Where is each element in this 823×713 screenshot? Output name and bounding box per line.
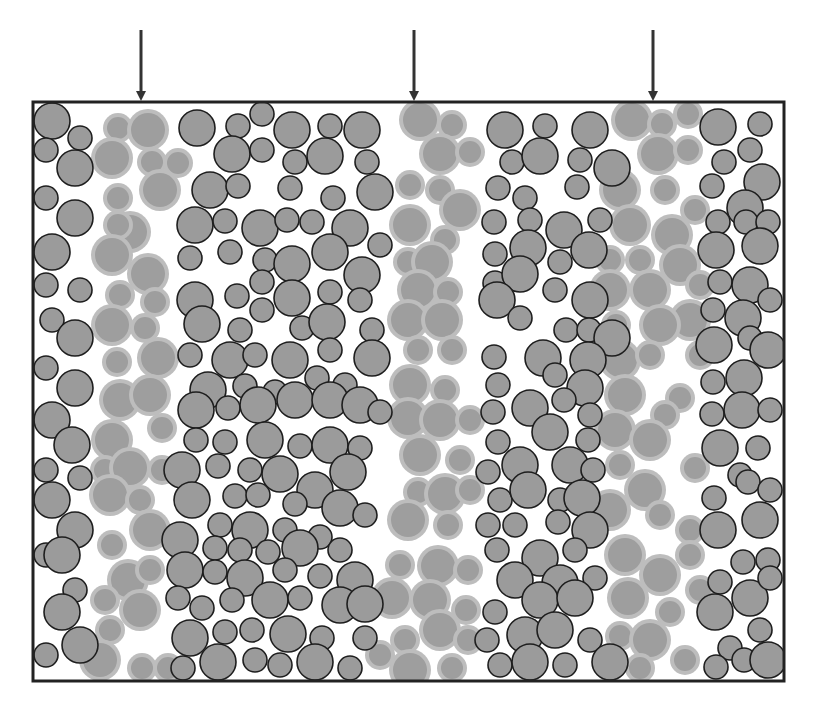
particle <box>318 280 342 304</box>
highlighted-particle <box>91 304 133 346</box>
highlighted-particle <box>455 137 485 167</box>
particle <box>250 298 274 322</box>
particle <box>34 234 70 270</box>
highlighted-particle <box>97 530 127 560</box>
particle <box>312 234 348 270</box>
particle <box>563 538 587 562</box>
highlighted-particle <box>129 374 171 416</box>
highlighted-particle <box>119 589 161 631</box>
particle <box>247 422 283 458</box>
particle <box>275 208 299 232</box>
particle <box>706 210 730 234</box>
particle <box>288 586 312 610</box>
particle <box>500 150 524 174</box>
particle <box>581 458 605 482</box>
particle <box>731 550 755 574</box>
highlighted-particle <box>91 234 133 276</box>
particle <box>485 538 509 562</box>
particle <box>190 596 214 620</box>
particle <box>708 270 732 294</box>
particle <box>697 594 733 630</box>
particle <box>200 644 236 680</box>
highlighted-particle <box>635 340 665 370</box>
particle <box>546 510 570 534</box>
particle <box>318 338 342 362</box>
particle <box>355 150 379 174</box>
particle <box>308 564 332 588</box>
particle <box>758 478 782 502</box>
particle <box>696 327 732 363</box>
particle <box>203 536 227 560</box>
highlighted-particle <box>127 109 169 151</box>
particle <box>701 370 725 394</box>
particle <box>533 114 557 138</box>
highlighted-particle <box>673 135 703 165</box>
particle <box>322 490 358 526</box>
highlighted-particle <box>399 434 441 476</box>
particle <box>250 270 274 294</box>
particle <box>283 150 307 174</box>
highlighted-particle <box>127 653 157 683</box>
particle <box>726 360 762 396</box>
particle <box>272 342 308 378</box>
particle <box>218 240 242 264</box>
highlighted-particle <box>387 499 429 541</box>
particle <box>522 138 558 174</box>
highlighted-particle <box>147 413 177 443</box>
particle <box>240 618 264 642</box>
particle <box>220 588 244 612</box>
particle <box>475 628 499 652</box>
highlighted-particle <box>445 445 475 475</box>
particle <box>328 538 352 562</box>
particle <box>353 626 377 650</box>
particle <box>488 653 512 677</box>
particle <box>750 332 786 368</box>
particle <box>274 280 310 316</box>
particle <box>179 110 215 146</box>
particle <box>368 400 392 424</box>
particle <box>167 552 203 588</box>
particle <box>330 454 366 490</box>
particle <box>57 150 93 186</box>
particle <box>34 273 58 297</box>
particle <box>178 392 214 428</box>
highlighted-particle <box>89 474 131 516</box>
particle <box>246 483 270 507</box>
particle <box>702 430 738 466</box>
particle <box>273 558 297 582</box>
particle <box>543 278 567 302</box>
particle <box>736 470 760 494</box>
highlighted-particle <box>421 299 463 341</box>
particle <box>748 618 772 642</box>
load-arrow-left-icon <box>136 30 146 101</box>
particle <box>250 138 274 162</box>
particle <box>748 112 772 136</box>
particle <box>553 653 577 677</box>
particle <box>44 594 80 630</box>
particle <box>243 648 267 672</box>
particle <box>738 138 762 162</box>
particle <box>354 340 390 376</box>
particle <box>192 172 228 208</box>
particle <box>44 537 80 573</box>
particle <box>701 298 725 322</box>
highlighted-particle <box>385 550 415 580</box>
particle <box>594 150 630 186</box>
particle <box>503 513 527 537</box>
particle <box>274 112 310 148</box>
highlighted-particle <box>675 540 705 570</box>
particle <box>318 114 342 138</box>
particle <box>250 102 274 126</box>
particle <box>360 318 384 342</box>
particle <box>482 345 506 369</box>
particle <box>568 148 592 172</box>
particle <box>297 644 333 680</box>
particle <box>34 643 58 667</box>
highlighted-particle <box>637 133 679 175</box>
particle <box>552 388 576 412</box>
particle <box>338 656 362 680</box>
particle <box>252 582 288 618</box>
particle <box>213 430 237 454</box>
particle <box>240 387 276 423</box>
particle <box>481 400 505 424</box>
